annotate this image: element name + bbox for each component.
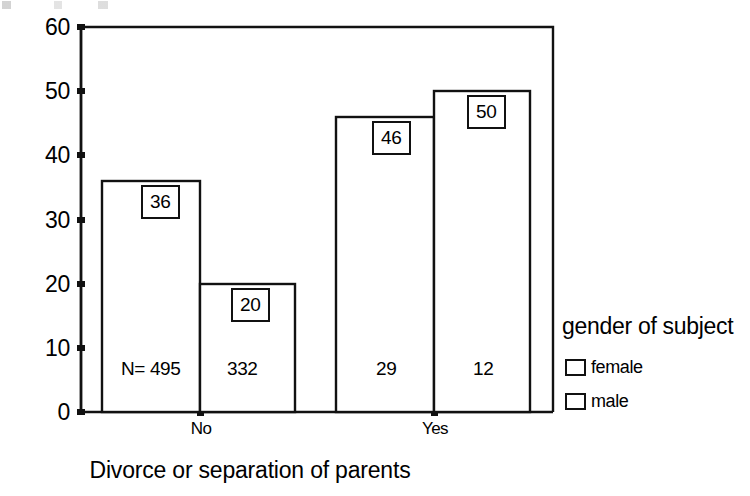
legend-label-female: female [591,358,643,376]
value-label-yes-female: 46 [372,121,411,155]
y-tick-label-20: 20 [26,273,70,296]
bar-chart-figure: 60 50 40 30 20 10 0 No Yes % who have ha… [0,0,750,496]
value-label-no-female: 36 [141,185,180,219]
y-tick-label-0: 0 [26,401,70,424]
legend-title: gender of subject [562,313,733,340]
y-tick-20 [77,281,85,287]
y-tick-label-30: 30 [26,209,70,232]
count-label-yes-male: 12 [473,359,493,378]
x-tick-label-yes: Yes [395,420,475,437]
y-tick-30 [77,217,85,223]
x-tick-label-no: No [161,420,241,437]
legend-swatch-male-icon [565,393,586,410]
value-label-no-male: 20 [231,288,270,322]
legend-item-female[interactable]: female [565,358,643,376]
y-tick-0 [77,409,85,415]
y-tick-label-10: 10 [26,337,70,360]
y-tick-10 [77,345,85,351]
y-tick-50 [77,88,85,94]
x-axis-title: Divorce or separation of parents [60,457,440,484]
count-label-no-female: N= 495 [121,359,180,378]
y-tick-label-40: 40 [26,144,70,167]
y-tick-label-50: 50 [26,80,70,103]
count-label-yes-female: 29 [376,359,396,378]
y-tick-label-60: 60 [26,16,70,39]
chart-canvas [0,0,750,496]
legend-swatch-female-icon [565,359,586,376]
value-label-yes-male: 50 [467,95,506,129]
y-tick-40 [77,152,85,158]
count-label-no-male: 332 [227,359,258,378]
y-tick-60 [77,24,85,30]
legend-label-male: male [591,392,628,410]
legend-item-male[interactable]: male [565,392,628,410]
